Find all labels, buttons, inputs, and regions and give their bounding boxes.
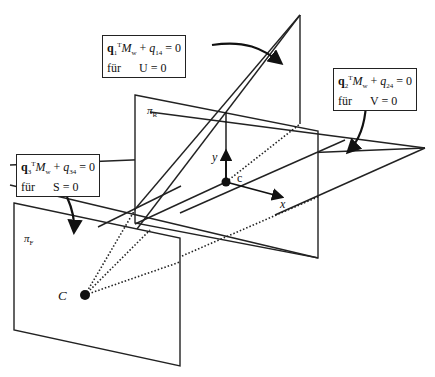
equation-box-v: q2TMw + q24 = 0 fürV = 0: [333, 68, 417, 111]
principal-point-dot: [222, 178, 231, 187]
y-axis-label: y: [212, 150, 217, 165]
principal-point-label: c: [237, 171, 242, 186]
camera-center-dot: [80, 290, 90, 300]
equation-box-u: q1TMw + q14 = 0 fürU = 0: [102, 35, 186, 78]
plane-pi-r-label: πR: [147, 104, 157, 119]
camera-center-label: C: [58, 288, 67, 304]
x-axis-label: x: [280, 197, 285, 212]
equation-box-s: q3TMw + q34 = 0 fürS = 0: [16, 154, 100, 197]
plane-pi-f-label: πF: [24, 232, 33, 247]
